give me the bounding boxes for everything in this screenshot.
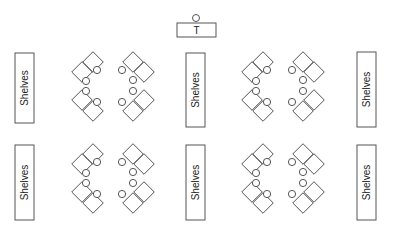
student-chair bbox=[93, 66, 100, 73]
student-chair bbox=[263, 190, 270, 197]
desk-pair bbox=[72, 87, 104, 121]
student-chair bbox=[93, 98, 100, 105]
student-chair bbox=[118, 98, 125, 105]
shelf: Shelves bbox=[357, 145, 376, 220]
desk-pair bbox=[118, 179, 154, 213]
desk-pair bbox=[118, 52, 154, 84]
student-chair bbox=[82, 179, 89, 186]
desk-pair bbox=[288, 144, 324, 176]
shelf-label: Shelves bbox=[19, 70, 30, 106]
student-chair bbox=[118, 158, 125, 165]
student-chair bbox=[252, 87, 259, 94]
student-chair bbox=[288, 98, 295, 105]
student-chair bbox=[263, 66, 270, 73]
shelf: Shelves bbox=[15, 53, 34, 123]
student-chair bbox=[82, 87, 89, 94]
student-chair bbox=[129, 168, 136, 175]
desk-group bbox=[72, 144, 155, 214]
desk-pair bbox=[118, 87, 154, 121]
desk-pair bbox=[118, 144, 154, 176]
shelf: Shelves bbox=[186, 145, 205, 220]
desk-pair bbox=[242, 87, 274, 121]
student-chair bbox=[82, 169, 89, 176]
student-chair bbox=[263, 98, 270, 105]
desk-group bbox=[242, 144, 325, 214]
student-chair bbox=[252, 77, 259, 84]
teacher-chair bbox=[193, 15, 200, 22]
student-chair bbox=[299, 87, 306, 94]
desk-pair bbox=[288, 52, 324, 84]
student-chair bbox=[288, 190, 295, 197]
student-chair bbox=[93, 158, 100, 165]
teacher-desk: T bbox=[177, 15, 216, 38]
shelf: Shelves bbox=[357, 52, 376, 127]
desk-pair bbox=[242, 52, 274, 85]
student-chair bbox=[288, 66, 295, 73]
student-chair bbox=[263, 158, 270, 165]
classroom-diagram: T ShelvesShelvesShelvesShelvesShelvesShe… bbox=[0, 0, 396, 235]
teacher-desk-label: T bbox=[193, 25, 199, 36]
student-chair bbox=[129, 87, 136, 94]
student-chair bbox=[252, 169, 259, 176]
student-chair bbox=[118, 66, 125, 73]
student-chair bbox=[93, 190, 100, 197]
shelf-label: Shelves bbox=[361, 72, 372, 108]
student-chair bbox=[82, 77, 89, 84]
desk-group bbox=[242, 52, 325, 122]
desk-pair bbox=[288, 87, 324, 121]
desk-group bbox=[72, 52, 155, 122]
student-chair bbox=[118, 190, 125, 197]
shelf-label: Shelves bbox=[19, 165, 30, 201]
student-chair bbox=[299, 179, 306, 186]
desk-pair bbox=[288, 179, 324, 213]
desk-pair bbox=[72, 144, 104, 177]
shelf-label: Shelves bbox=[190, 72, 201, 108]
desk-pair bbox=[242, 179, 274, 213]
desk-pair bbox=[72, 52, 104, 85]
student-chair bbox=[288, 158, 295, 165]
shelf: Shelves bbox=[15, 145, 34, 220]
shelf-label: Shelves bbox=[190, 165, 201, 201]
student-chair bbox=[129, 179, 136, 186]
desk-pair bbox=[72, 179, 104, 213]
shelf: Shelves bbox=[186, 53, 205, 127]
desk-pair bbox=[242, 144, 274, 177]
student-chair bbox=[252, 179, 259, 186]
student-chair bbox=[129, 76, 136, 83]
student-chair bbox=[299, 76, 306, 83]
shelf-label: Shelves bbox=[361, 165, 372, 201]
student-chair bbox=[299, 168, 306, 175]
